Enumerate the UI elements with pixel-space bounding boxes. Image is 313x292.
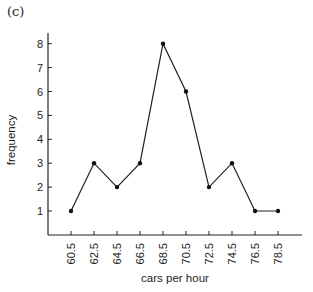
x-tick-label: 60.5: [65, 243, 77, 264]
frequency-polygon-chart: 12345678 60.562.564.566.568.570.572.574.…: [0, 0, 313, 292]
x-axis-ticks: 60.562.564.566.568.570.572.574.576.578.5: [65, 231, 284, 264]
data-point: [207, 185, 211, 189]
y-tick-label: 7: [37, 62, 43, 74]
y-tick-label: 2: [37, 181, 43, 193]
x-axis-label: cars per hour: [141, 272, 209, 284]
y-tick-label: 4: [37, 133, 43, 145]
data-point: [276, 209, 280, 213]
x-tick-label: 68.5: [157, 243, 169, 264]
x-tick-label: 72.5: [203, 243, 215, 264]
data-line: [71, 44, 278, 211]
data-point: [115, 185, 119, 189]
data-point: [184, 89, 188, 93]
x-tick-label: 62.5: [88, 243, 100, 264]
y-tick-label: 3: [37, 157, 43, 169]
y-axis-label: frequency: [5, 115, 17, 166]
y-tick-label: 8: [37, 38, 43, 50]
data-point: [69, 209, 73, 213]
x-tick-label: 70.5: [180, 243, 192, 264]
x-tick-label: 78.5: [272, 243, 284, 264]
y-tick-label: 5: [37, 109, 43, 121]
data-point: [92, 161, 96, 165]
y-tick-label: 1: [37, 205, 43, 217]
data-point: [138, 161, 142, 165]
x-tick-label: 66.5: [134, 243, 146, 264]
x-tick-label: 76.5: [249, 243, 261, 264]
y-tick-label: 6: [37, 86, 43, 98]
y-axis-ticks: 12345678: [37, 38, 52, 217]
axes: [48, 33, 302, 235]
data-point: [253, 209, 257, 213]
x-tick-label: 64.5: [111, 243, 123, 264]
data-point: [230, 161, 234, 165]
data-point: [161, 42, 165, 46]
x-tick-label: 74.5: [226, 243, 238, 264]
